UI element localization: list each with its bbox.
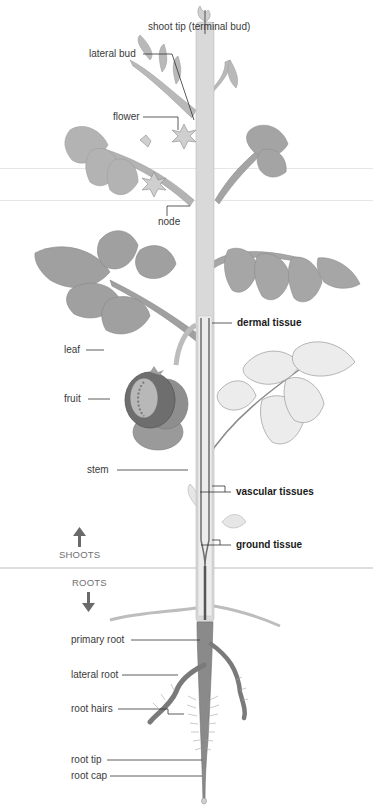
upper-branches bbox=[130, 35, 238, 118]
right-upper-leaves bbox=[215, 125, 288, 204]
plant-illustration bbox=[0, 0, 373, 806]
label-lateral-bud: lateral bud bbox=[89, 48, 136, 60]
label-root-hairs: root hairs bbox=[71, 703, 113, 715]
label-primary-root: primary root bbox=[71, 634, 124, 646]
label-root-tip: root tip bbox=[71, 754, 102, 766]
label-lateral-root: lateral root bbox=[71, 669, 118, 681]
label-stem: stem bbox=[87, 464, 109, 476]
fruit-cluster bbox=[125, 366, 188, 450]
label-root-cap: root cap bbox=[71, 770, 107, 782]
arrow-up-icon bbox=[73, 527, 86, 547]
root-system bbox=[110, 606, 280, 804]
main-stem bbox=[196, 6, 214, 622]
label-roots: ROOTS bbox=[72, 577, 107, 589]
label-vascular-tissues: vascular tissues bbox=[236, 486, 314, 498]
label-dermal-tissue: dermal tissue bbox=[237, 317, 301, 329]
label-ground-tissue: ground tissue bbox=[236, 539, 302, 551]
left-compound-leaf bbox=[35, 231, 206, 346]
arrow-down-icon bbox=[82, 592, 95, 612]
label-shoot-tip: shoot tip (terminal bud) bbox=[148, 21, 250, 33]
label-flower: flower bbox=[113, 111, 140, 123]
label-shoots: SHOOTS bbox=[59, 549, 100, 561]
right-compound-leaf bbox=[212, 248, 360, 302]
label-fruit: fruit bbox=[64, 393, 81, 405]
label-leaf: leaf bbox=[64, 344, 80, 356]
left-upper-leaves bbox=[65, 126, 194, 206]
right-light-leaf bbox=[206, 342, 355, 460]
label-node: node bbox=[158, 216, 180, 228]
